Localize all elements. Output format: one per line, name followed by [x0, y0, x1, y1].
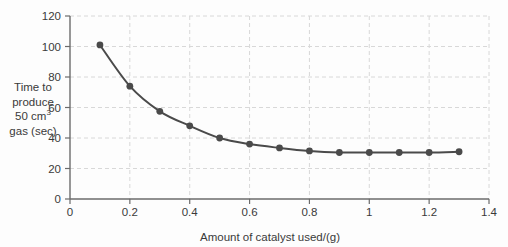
axis-lines: [70, 16, 489, 199]
data-point-marker: [366, 149, 373, 156]
x-tick-label: 0.4: [182, 206, 199, 218]
gridlines: [70, 16, 489, 199]
x-tick-label: 0: [67, 206, 73, 218]
chart-figure: Time to produce 50 cm3 gas (sec) 00.20.4…: [0, 0, 508, 247]
data-point-marker: [126, 83, 133, 90]
data-point-marker: [186, 122, 193, 129]
y-tick-label: 60: [48, 102, 61, 114]
data-point-marker: [426, 149, 433, 156]
x-tick-label: 1: [366, 206, 372, 218]
y-tick-label: 80: [48, 71, 61, 83]
y-tick-label: 20: [48, 163, 61, 175]
data-point-marker: [216, 135, 223, 142]
data-point-marker: [156, 108, 163, 115]
y-tick-label: 100: [42, 41, 61, 53]
x-tick-label: 1.2: [421, 206, 437, 218]
data-point-marker: [336, 149, 343, 156]
data-series-line: [100, 45, 459, 153]
data-point-marker: [276, 145, 283, 152]
x-tick-label: 0.8: [301, 206, 317, 218]
line-chart-plot: 00.20.40.60.811.21.4 020406080100120 Amo…: [0, 0, 508, 247]
y-tick-label: 0: [55, 193, 61, 205]
data-point-marker: [396, 149, 403, 156]
data-point-marker: [246, 141, 253, 148]
series-curve: [100, 45, 459, 153]
y-tick-label: 120: [42, 10, 61, 22]
x-axis-title: Amount of catalyst used/(g): [200, 231, 340, 243]
x-tick-label: 0.6: [242, 206, 258, 218]
y-tick-label: 40: [48, 132, 61, 144]
data-point-marker: [456, 148, 463, 155]
x-tick-label: 1.4: [481, 206, 498, 218]
y-axis-tick-labels: 020406080100120: [42, 10, 61, 205]
data-point-marker: [306, 148, 313, 155]
x-axis-tick-labels: 00.20.40.60.811.21.4: [67, 206, 498, 218]
tick-marks: [65, 16, 489, 204]
x-tick-label: 0.2: [122, 206, 138, 218]
data-series-markers: [97, 42, 463, 156]
data-point-marker: [97, 42, 104, 49]
